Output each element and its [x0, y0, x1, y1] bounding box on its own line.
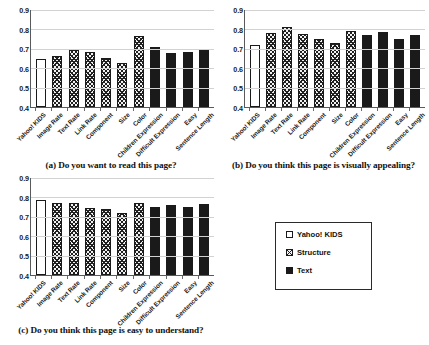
x-axis-label: Size	[117, 111, 131, 125]
chart-legend: Yahoo! KIDSStructureText	[275, 222, 372, 290]
chart-panel-b: 0.40.50.60.70.80.9 Yahoo! KIDSImage Rate…	[222, 10, 425, 178]
chart-panel-a: 0.40.50.60.70.80.9 Yahoo! KIDSImage Rate…	[8, 10, 214, 178]
bar-structure	[52, 203, 62, 275]
gridline	[31, 256, 214, 257]
bar-structure	[330, 43, 340, 107]
chart-caption-b: (b) Do you think this page is visually a…	[222, 160, 425, 170]
bar-text	[199, 50, 209, 107]
y-tick-label: 0.7	[19, 213, 29, 222]
bar-structure	[298, 34, 308, 107]
bar-text	[199, 204, 209, 275]
x-axis-labels-a: Yahoo! KIDSImage RateText RateLink RateC…	[30, 111, 214, 163]
legend-item-structure: Structure	[286, 248, 371, 257]
gridline	[31, 236, 214, 237]
y-tick-label: 0.7	[19, 45, 29, 54]
bar-text	[410, 35, 420, 107]
x-axis-labels-c: Yahoo! KIDSImage RateText RateLink RateC…	[30, 279, 214, 331]
gridline	[31, 10, 214, 11]
bar-series-b	[245, 10, 425, 107]
y-tick-label: 0.6	[233, 64, 243, 73]
y-tick-label: 0.7	[233, 45, 243, 54]
bar-structure	[134, 203, 144, 275]
chart-caption-c: (c) Do you think this page is easy to un…	[8, 325, 214, 335]
y-tick-label: 0.6	[19, 64, 29, 73]
bar-structure	[282, 27, 292, 107]
gridline	[245, 49, 425, 50]
bar-text	[362, 35, 372, 107]
bar-series-a	[31, 10, 214, 107]
gridline	[245, 68, 425, 69]
legend-item-text: Text	[286, 266, 371, 275]
legend-label: Yahoo! KIDS	[297, 230, 343, 239]
x-axis-labels-b: Yahoo! KIDSImage RateText RateLink RateC…	[244, 111, 425, 163]
x-axis-label: Size	[330, 111, 344, 125]
chart-caption-a: (a) Do you want to read this page?	[8, 160, 214, 170]
y-axis-labels-a: 0.40.50.60.70.80.9	[8, 10, 30, 108]
y-tick-label: 0.8	[233, 25, 243, 34]
plot-area-b: 0.40.50.60.70.80.9 Yahoo! KIDSImage Rate…	[222, 10, 425, 138]
axes-a	[30, 10, 214, 108]
bar-structure	[69, 50, 79, 107]
y-tick-label: 0.5	[19, 252, 29, 261]
bar-series-c	[31, 178, 214, 275]
y-tick-label: 0.6	[19, 232, 29, 241]
bar-text	[150, 47, 160, 107]
y-tick-label: 0.9	[19, 174, 29, 183]
legend-swatch-text-icon	[286, 267, 293, 274]
bar-structure	[101, 209, 111, 275]
legend-label: Structure	[297, 248, 331, 257]
bar-text	[378, 32, 388, 107]
legend-item-yahoo: Yahoo! KIDS	[286, 230, 371, 239]
gridline	[31, 197, 214, 198]
bar-yahoo	[36, 59, 46, 107]
gridline	[245, 10, 425, 11]
x-axis-label: Size	[117, 279, 131, 293]
bar-structure	[69, 203, 79, 275]
y-tick-label: 0.8	[19, 25, 29, 34]
gridline	[245, 29, 425, 30]
y-tick-label: 0.5	[19, 84, 29, 93]
y-tick-label: 0.5	[233, 84, 243, 93]
bar-text	[183, 52, 193, 107]
y-tick-label: 0.4	[19, 272, 29, 281]
bar-yahoo	[250, 45, 260, 107]
bar-yahoo	[36, 200, 46, 275]
y-axis-labels-c: 0.40.50.60.70.80.9	[8, 178, 30, 276]
bar-structure	[117, 213, 127, 275]
y-axis-labels-b: 0.40.50.60.70.80.9	[222, 10, 244, 108]
y-tick-label: 0.9	[19, 6, 29, 15]
plot-area-a: 0.40.50.60.70.80.9 Yahoo! KIDSImage Rate…	[8, 10, 214, 138]
gridline	[31, 29, 214, 30]
bar-structure	[266, 33, 276, 107]
bar-text	[166, 205, 176, 275]
y-tick-label: 0.8	[19, 193, 29, 202]
bar-text	[166, 53, 176, 107]
gridline	[31, 68, 214, 69]
legend-swatch-yahoo-icon	[286, 231, 293, 238]
plot-area-c: 0.40.50.60.70.80.9 Yahoo! KIDSImage Rate…	[8, 178, 214, 306]
y-tick-label: 0.9	[233, 6, 243, 15]
gridline	[31, 217, 214, 218]
axes-b	[244, 10, 425, 108]
legend-swatch-structure-icon	[286, 249, 293, 256]
axes-c	[30, 178, 214, 276]
gridline	[31, 88, 214, 89]
bar-structure	[117, 63, 127, 107]
chart-panel-c: 0.40.50.60.70.80.9 Yahoo! KIDSImage Rate…	[8, 178, 214, 343]
gridline	[245, 88, 425, 89]
bar-structure	[52, 56, 62, 107]
y-tick-label: 0.4	[233, 104, 243, 113]
gridline	[31, 178, 214, 179]
legend-label: Text	[297, 266, 312, 275]
bar-structure	[134, 36, 144, 107]
y-tick-label: 0.4	[19, 104, 29, 113]
gridline	[31, 49, 214, 50]
bar-structure	[85, 52, 95, 107]
bar-structure	[101, 58, 111, 107]
figure-grid: 0.40.50.60.70.80.9 Yahoo! KIDSImage Rate…	[0, 0, 429, 345]
